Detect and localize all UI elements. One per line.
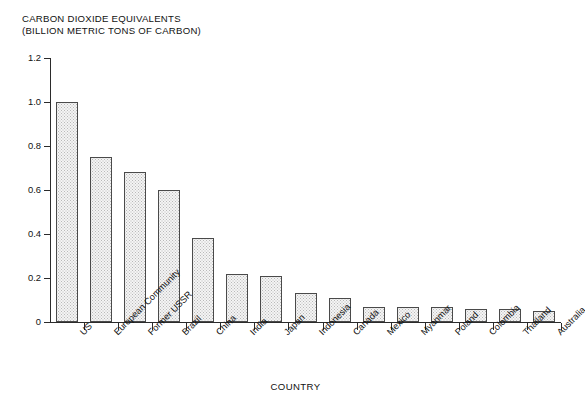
y-tick-label: 1.2 [0,52,41,63]
bar [260,276,282,322]
x-category-label: Mexico [385,330,392,337]
plot-area: 00.20.40.60.81.01.2 USEuropean Community… [0,0,585,420]
x-category-label: Brazil [180,330,187,337]
x-category-label: India [248,330,255,337]
y-tick-mark [44,322,51,323]
x-category-label: Japan [282,330,289,337]
x-category-label: Indonesia [317,330,324,337]
y-tick-mark [44,102,51,103]
x-category-label: US [78,330,85,337]
x-category-label: European Community [112,330,119,337]
y-tick-label: 0.2 [0,272,41,283]
x-category-label: Thailand [521,330,528,337]
bar [192,238,214,322]
x-category-label: China [214,330,221,337]
y-tick-mark [44,58,51,59]
x-category-label: Former USSR [146,330,153,337]
y-tick-label: 1.0 [0,96,41,107]
y-tick-mark [44,278,51,279]
y-tick-mark [44,146,51,147]
x-axis-title-text: COUNTRY [270,381,320,392]
x-category-label: Canada [351,330,358,337]
x-category-label: Poland [453,330,460,337]
x-axis-title: COUNTRY [0,381,585,392]
y-tick-mark [44,234,51,235]
y-tick-label: 0 [0,316,41,327]
y-tick-label: 0.4 [0,228,41,239]
y-tick-label: 0.6 [0,184,41,195]
x-category-label: Myanmar [419,330,426,337]
y-tick-label: 0.8 [0,140,41,151]
y-tick-mark [44,190,51,191]
bar [56,102,78,322]
x-category-label: Colombia [487,330,494,337]
bar [90,157,112,322]
chart-page: CARBON DIOXIDE EQUIVALENTS (BILLION METR… [0,0,585,420]
x-category-label: Australia [555,330,562,337]
